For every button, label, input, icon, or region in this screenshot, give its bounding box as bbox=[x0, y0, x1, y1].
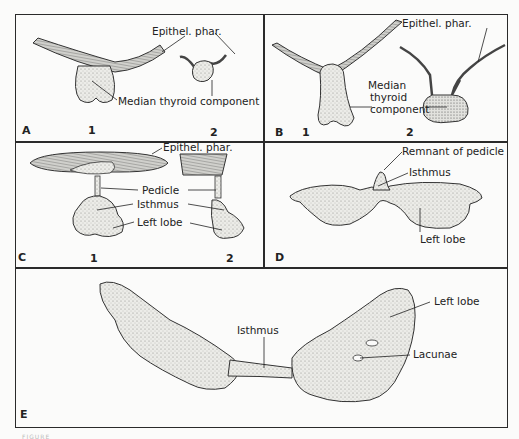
panel-a-art bbox=[33, 33, 235, 103]
label-b-thyroid: thyroid bbox=[370, 92, 407, 103]
panel-letter-d: D bbox=[275, 251, 284, 264]
label-c-epithel-phar: Epithel. phar. bbox=[163, 142, 233, 153]
panel-letter-a: A bbox=[22, 124, 31, 137]
label-b-component: component bbox=[370, 104, 429, 115]
panel-e-art bbox=[100, 282, 430, 402]
label-d-isthmus: Isthmus bbox=[409, 167, 451, 178]
label-d-left-lobe: Left lobe bbox=[420, 234, 466, 245]
label-e-lacunae: Lacunae bbox=[413, 349, 457, 360]
panel-a-sub-2: 2 bbox=[210, 126, 218, 139]
panel-d-art bbox=[290, 152, 482, 232]
panel-b-sub-1: 1 bbox=[302, 126, 310, 139]
label-e-isthmus: Isthmus bbox=[237, 325, 279, 336]
panel-c-sub-2: 2 bbox=[226, 252, 234, 265]
label-b-epithel-phar: Epithel. phar. bbox=[402, 18, 472, 29]
panel-letter-c: C bbox=[18, 251, 26, 264]
label-c-isthmus: Isthmus bbox=[137, 199, 179, 210]
label-a-median-thyroid: Median thyroid component bbox=[118, 96, 259, 107]
panel-letter-e: E bbox=[20, 408, 28, 421]
label-d-remnant-pedicle: Remnant of pedicle bbox=[402, 146, 504, 157]
panel-b-sub-2: 2 bbox=[406, 126, 414, 139]
panel-c-sub-1: 1 bbox=[90, 252, 98, 265]
label-a-epithel-phar: Epithel. phar. bbox=[152, 26, 222, 37]
thyroid-illustrations bbox=[0, 0, 519, 439]
label-b-median: Median bbox=[368, 80, 406, 91]
figure-caption-fragment: FIGURE bbox=[22, 433, 50, 439]
label-c-pedicle: Pedicle bbox=[142, 185, 179, 196]
label-c-left-lobe: Left lobe bbox=[137, 217, 183, 228]
label-e-left-lobe: Left lobe bbox=[434, 296, 480, 307]
panel-a-sub-1: 1 bbox=[88, 124, 96, 137]
panel-letter-b: B bbox=[275, 126, 283, 139]
